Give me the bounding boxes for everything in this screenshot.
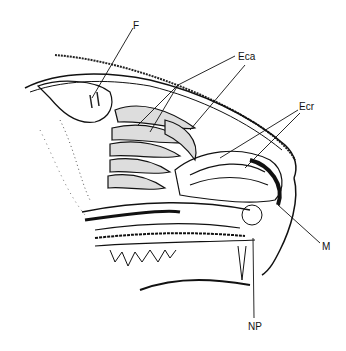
label-eca: Eca: [238, 52, 255, 62]
dorsal-hair-outline: [55, 55, 295, 160]
hard-palate: [82, 203, 255, 246]
label-ecr: Ecr: [299, 102, 314, 112]
label-f: F: [133, 21, 139, 31]
nasal-section-drawing: [0, 0, 346, 351]
lower-jaw: [140, 280, 250, 290]
label-m: M: [322, 242, 330, 252]
teeth: [110, 246, 246, 280]
maxilloturbinate: [175, 151, 282, 205]
leader-lines: [92, 28, 320, 318]
label-np: NP: [248, 322, 262, 332]
ethmoturbinates: [108, 106, 196, 189]
frontal-sinus: [38, 81, 112, 122]
